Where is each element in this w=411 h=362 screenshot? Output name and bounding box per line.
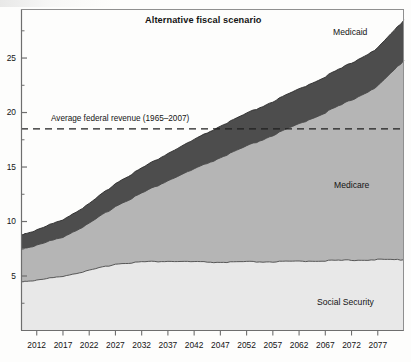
y-tick-label-10: 10 — [0, 216, 16, 226]
series-label-medicaid: Medicaid — [333, 27, 367, 37]
y-tick-label-5: 5 — [0, 271, 16, 281]
figure-container: Alternative fiscal scenario Medicaid Med… — [0, 0, 411, 362]
average-federal-revenue-label: Average federal revenue (1965–2007) — [51, 114, 189, 123]
x-tick-marks — [37, 331, 378, 336]
y-tick-label-25: 25 — [0, 53, 16, 63]
y-tick-label-20: 20 — [0, 107, 16, 117]
series-label-social-security: Social Security — [317, 297, 374, 307]
chart-title: Alternative fiscal scenario — [145, 15, 262, 25]
y-tick-label-15: 15 — [0, 162, 16, 172]
series-label-medicare: Medicare — [334, 180, 369, 190]
x-tick-label-2077: 2077 — [363, 340, 393, 350]
